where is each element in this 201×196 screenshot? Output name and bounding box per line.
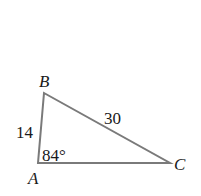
angle-a-measure: 84° <box>42 146 66 165</box>
vertex-label-a: A <box>27 169 39 188</box>
triangle-diagram: B A C 14 30 84° <box>0 0 201 196</box>
vertex-label-b: B <box>39 72 50 91</box>
side-ab-length: 14 <box>16 123 34 142</box>
side-bc-length: 30 <box>104 109 121 128</box>
vertex-label-c: C <box>174 155 186 174</box>
